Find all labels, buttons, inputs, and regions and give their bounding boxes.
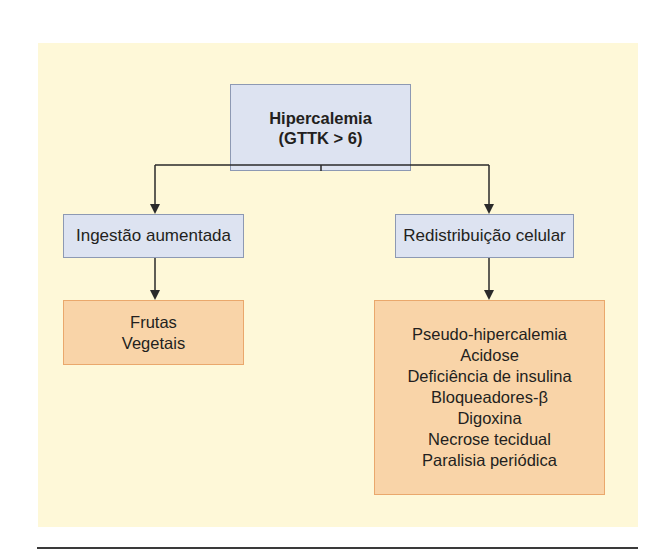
arrowhead-icon: [484, 204, 494, 214]
cause-item: Necrose tecidual: [428, 429, 551, 450]
cause-item: Paralisia periódica: [422, 450, 557, 471]
arrowhead-icon: [150, 290, 160, 300]
cause-item: Pseudo-hipercalemia: [412, 324, 567, 345]
node-redistribuicao-celular: Redistribuição celular: [395, 214, 574, 258]
cause-item: Deficiência de insulina: [407, 366, 571, 387]
cause-item: Digoxina: [457, 408, 521, 429]
arrowhead-icon: [150, 204, 160, 214]
cause-item: Acidose: [460, 345, 519, 366]
causes-list-redistribuicao: Pseudo-hipercalemia Acidose Deficiência …: [374, 300, 605, 495]
causes-list-ingestao: Frutas Vegetais: [63, 300, 244, 365]
cause-item: Frutas: [130, 312, 177, 333]
arrowhead-icon: [484, 290, 494, 300]
bottom-divider-rule: [37, 547, 638, 549]
node-label: Ingestão aumentada: [76, 226, 231, 246]
cause-item: Vegetais: [122, 333, 185, 354]
node-ingestao-aumentada: Ingestão aumentada: [63, 214, 244, 258]
node-label: Redistribuição celular: [403, 226, 566, 246]
cause-item: Bloqueadores-β: [431, 387, 548, 408]
